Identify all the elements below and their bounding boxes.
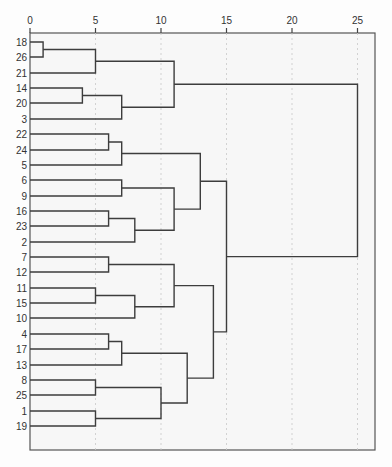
leaf-label-21: 21 <box>16 68 28 79</box>
leaf-label-3: 3 <box>21 114 27 125</box>
leaf-label-2: 2 <box>21 237 27 248</box>
leaf-label-23: 23 <box>16 221 28 232</box>
x-tick-label-10: 10 <box>155 15 167 26</box>
leaf-label-8: 8 <box>21 375 27 386</box>
leaf-label-9: 9 <box>21 191 27 202</box>
leaf-label-25: 25 <box>16 390 28 401</box>
leaf-label-13: 13 <box>16 360 28 371</box>
leaf-label-24: 24 <box>16 145 28 156</box>
leaf-label-15: 15 <box>16 298 28 309</box>
leaf-label-11: 11 <box>17 283 28 294</box>
leaf-label-1: 1 <box>21 406 27 417</box>
leaf-label-16: 16 <box>16 206 28 217</box>
leaf-label-12: 12 <box>16 267 28 278</box>
dendrogram-svg: 0510152025 18262114203222456916232712111… <box>0 0 392 467</box>
leaf-label-7: 7 <box>21 252 27 263</box>
dendrogram-chart: 0510152025 18262114203222456916232712111… <box>0 0 392 467</box>
x-axis: 0510152025 <box>27 15 363 33</box>
x-tick-label-25: 25 <box>352 15 364 26</box>
leaf-label-6: 6 <box>21 175 27 186</box>
leaf-label-22: 22 <box>16 129 28 140</box>
leaf-label-14: 14 <box>16 83 28 94</box>
leaf-label-17: 17 <box>16 344 28 355</box>
x-tick-label-0: 0 <box>27 15 33 26</box>
leaf-label-10: 10 <box>16 313 28 324</box>
leaf-label-26: 26 <box>16 52 28 63</box>
x-tick-label-5: 5 <box>93 15 99 26</box>
x-tick-label-15: 15 <box>221 15 233 26</box>
leaf-label-18: 18 <box>16 37 28 48</box>
leaf-labels: 1826211420322245691623271211151041713825… <box>16 37 28 432</box>
leaf-label-5: 5 <box>21 160 27 171</box>
leaf-label-19: 19 <box>16 421 28 432</box>
leaf-label-4: 4 <box>21 329 27 340</box>
x-tick-label-20: 20 <box>286 15 298 26</box>
leaf-label-20: 20 <box>16 98 28 109</box>
